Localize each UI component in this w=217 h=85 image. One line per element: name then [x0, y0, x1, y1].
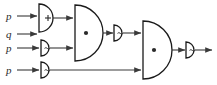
logic-circuit-diagram: p q p p — [0, 0, 217, 85]
circuit-canvas: p q p p — [0, 0, 217, 85]
input-label-p1: p — [5, 10, 12, 22]
gate-not-7 — [186, 42, 195, 58]
gate-and-6 — [143, 21, 172, 79]
gate-not-5 — [114, 25, 123, 41]
input-label-q: q — [6, 28, 12, 40]
dot-symbol — [152, 48, 156, 52]
input-label-p2: p — [5, 42, 12, 54]
gate-not-3 — [41, 40, 50, 56]
dot-symbol — [84, 31, 88, 35]
gate-not-4 — [41, 62, 50, 78]
gate-or-1 — [39, 4, 53, 32]
input-label-p3: p — [5, 64, 12, 76]
gate-and-2 — [75, 5, 103, 61]
